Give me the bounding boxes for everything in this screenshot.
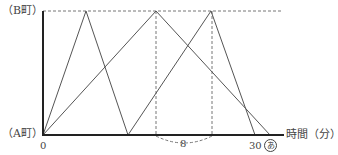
b-town-label: （B町）: [2, 5, 43, 17]
unknown-label-text: あ: [267, 141, 275, 150]
a-town-label: （A町）: [2, 128, 43, 140]
travel-line-1: [43, 11, 255, 135]
tick-30-label: 30: [249, 140, 262, 152]
origin-label: 0: [40, 140, 46, 152]
unknown-circled-label: あ: [264, 139, 277, 152]
x-axis-label: 時間（分）: [286, 129, 338, 141]
gap-label: 8: [180, 138, 186, 150]
